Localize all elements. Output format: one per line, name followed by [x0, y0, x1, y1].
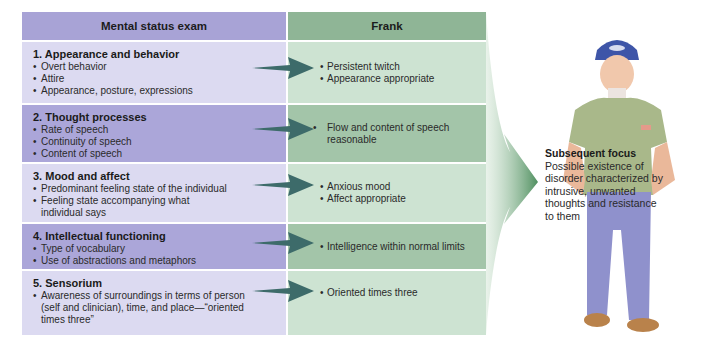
arrow-right-icon [252, 57, 314, 79]
arrow-right-icon [252, 280, 314, 302]
subsequent-focus: Subsequent focus Possible existence of d… [545, 147, 705, 222]
exam-title: 2. Thought processes [33, 111, 286, 124]
exam-item: •Appearance, posture, expressions [33, 85, 286, 97]
exam-item: •Predominant feeling state of the indivi… [33, 183, 286, 195]
funnel-arrow-icon [480, 12, 540, 335]
arrow-right-icon [252, 174, 314, 196]
exam-row-3: 3. Mood and affect •Predominant feeling … [22, 164, 286, 222]
finding-row-2: •Flow and content of speech reasonable [288, 105, 486, 162]
finding-row-5: •Oriented times three [288, 271, 486, 335]
exam-item: •Overt behavior [33, 61, 286, 73]
subsequent-focus-text: Possible existence of disorder character… [545, 160, 665, 223]
exam-row-4: 4. Intellectual functioning •Type of voc… [22, 224, 286, 269]
exam-title: 4. Intellectual functioning [33, 230, 286, 243]
finding-item: •Appearance appropriate [320, 73, 486, 85]
exam-title: 3. Mood and affect [33, 170, 286, 183]
finding-item: •Anxious mood [320, 181, 486, 193]
finding-item: •Oriented times three [320, 287, 486, 299]
header-frank: Frank [288, 12, 486, 40]
exam-item: •Rate of speech [33, 124, 286, 136]
exam-item: •Feeling state accompanying what individ… [33, 195, 216, 219]
finding-item: •Affect appropriate [320, 193, 486, 205]
exam-item: •Continuity of speech [33, 136, 286, 148]
finding-item: •Flow and content of speech reasonable [320, 122, 457, 146]
subsequent-focus-title: Subsequent focus [545, 147, 705, 160]
arrow-right-icon [252, 232, 314, 254]
finding-row-3: •Anxious mood •Affect appropriate [288, 164, 486, 222]
header-mental-status-exam: Mental status exam [22, 12, 286, 40]
exam-row-2: 2. Thought processes •Rate of speech •Co… [22, 105, 286, 162]
finding-item: •Persistent twitch [320, 61, 486, 73]
finding-item: •Intelligence within normal limits [320, 241, 486, 253]
exam-item: •Attire [33, 73, 286, 85]
exam-row-1: 1. Appearance and behavior •Overt behavi… [22, 42, 286, 103]
exam-item: •Awareness of surroundings in terms of p… [33, 290, 246, 326]
exam-title: 5. Sensorium [33, 277, 286, 290]
exam-item: •Use of abstractions and metaphors [33, 255, 286, 267]
exam-title: 1. Appearance and behavior [33, 48, 286, 61]
exam-item: •Type of vocabulary [33, 243, 286, 255]
arrow-right-icon [252, 118, 314, 140]
finding-row-1: •Persistent twitch •Appearance appropria… [288, 42, 486, 103]
exam-item: •Content of speech [33, 148, 286, 160]
exam-row-5: 5. Sensorium •Awareness of surroundings … [22, 271, 286, 335]
finding-row-4: •Intelligence within normal limits [288, 224, 486, 269]
